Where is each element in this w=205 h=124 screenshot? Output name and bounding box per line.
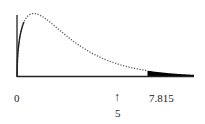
density-curve — [17, 14, 148, 77]
rejection-region — [148, 71, 195, 77]
critical-value-label: 7.815 — [149, 93, 174, 104]
chi-square-chart — [0, 0, 205, 124]
test-statistic-label: 5 — [115, 108, 121, 119]
density-curve-steep-part — [17, 22, 24, 77]
origin-label: 0 — [14, 93, 20, 104]
arrow-icon: ↑ — [114, 91, 120, 103]
